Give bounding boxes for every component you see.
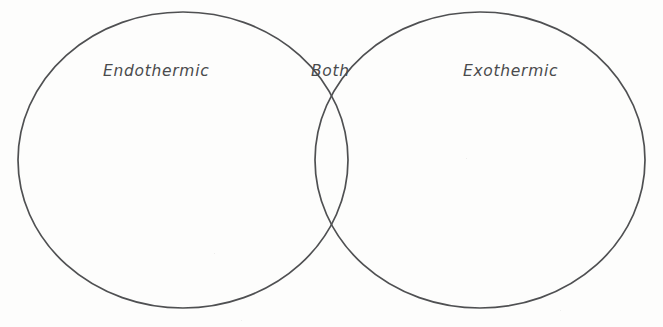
venn-diagram-canvas xyxy=(0,0,663,327)
venn-circle-left xyxy=(18,12,348,308)
venn-label-center: Both xyxy=(311,62,350,80)
paper-speck xyxy=(466,158,467,159)
venn-circle-right xyxy=(315,12,645,308)
venn-label-left: Endothermic xyxy=(103,62,209,80)
paper-speck xyxy=(560,310,561,311)
paper-speck xyxy=(214,253,215,254)
venn-diagram: Endothermic Both Exothermic xyxy=(0,0,663,327)
venn-label-right: Exothermic xyxy=(463,62,558,80)
paper-speck xyxy=(241,320,242,321)
